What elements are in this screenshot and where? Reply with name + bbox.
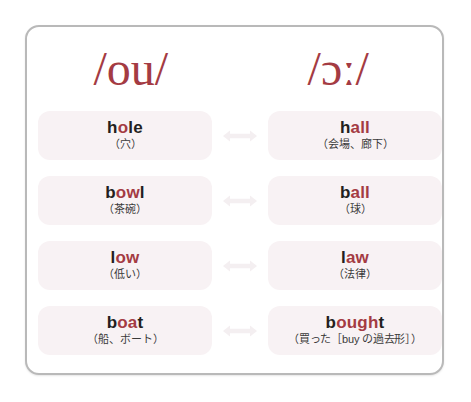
word-pair-list: hole （穴） hall （会場、廊下） bowl （茶碗） [27, 103, 442, 363]
word-left-highlight: ow [116, 183, 140, 202]
word-right: bought [326, 314, 385, 332]
pair-arrow-container [212, 306, 268, 355]
pair-arrow-container [212, 111, 268, 160]
word-right-pre: h [340, 118, 351, 137]
chart-card: /ou/ /ɔː/ hole （穴） hall （ [25, 25, 444, 375]
word-right-pre: b [340, 183, 351, 202]
word-left-post: t [137, 313, 143, 332]
word-card-right: law （法律） [268, 241, 442, 290]
word-left-post: le [128, 118, 143, 137]
word-left-pre: b [105, 183, 116, 202]
phonetic-header-row: /ou/ /ɔː/ [27, 33, 442, 105]
word-card-right: bought （買った［buy の過去形］） [268, 306, 442, 355]
word-pair-row: low （低い） law （法律） [27, 233, 442, 298]
word-left: hole [107, 119, 143, 137]
gloss-left: （船、ボート） [87, 333, 164, 346]
double-headed-arrow-icon [223, 129, 257, 143]
word-card-left: low （低い） [38, 241, 212, 290]
gloss-right: （会場、廊下） [317, 138, 394, 151]
word-card-left: hole （穴） [38, 111, 212, 160]
gloss-left: （穴） [109, 138, 142, 151]
word-left: bowl [105, 184, 145, 202]
word-card-left: boat （船、ボート） [38, 306, 212, 355]
word-right-pre: b [326, 313, 337, 332]
word-left-highlight: oa [117, 313, 137, 332]
word-left-highlight: ow [115, 248, 139, 267]
word-left-pre: b [107, 313, 118, 332]
pair-arrow-container [212, 176, 268, 225]
word-right: ball [340, 184, 370, 202]
double-headed-arrow-icon [223, 194, 257, 208]
word-left: low [111, 249, 140, 267]
word-right: hall [340, 119, 370, 137]
phonetic-symbol-left: /ou/ [93, 45, 168, 93]
double-headed-arrow-icon [223, 324, 257, 338]
word-card-left: bowl （茶碗） [38, 176, 212, 225]
word-card-right: ball （球） [268, 176, 442, 225]
word-card-right: hall （会場、廊下） [268, 111, 442, 160]
word-left-pre: h [107, 118, 118, 137]
gloss-left: （低い） [103, 268, 147, 281]
word-right-highlight: all [351, 118, 371, 137]
phonetic-symbol-right: /ɔː/ [308, 45, 369, 93]
gloss-right: （法律） [333, 268, 377, 281]
gloss-left: （茶碗） [103, 203, 147, 216]
word-left: boat [107, 314, 144, 332]
phonetic-header-right-cell: /ɔː/ [235, 33, 443, 105]
word-right-highlight: all [351, 183, 371, 202]
word-right: law [341, 249, 369, 267]
gloss-right: （球） [339, 203, 372, 216]
word-right-highlight: ough [336, 313, 378, 332]
minimal-pair-chart: /ou/ /ɔː/ hole （穴） hall （ [0, 0, 471, 402]
phonetic-header-left-cell: /ou/ [27, 33, 235, 105]
word-pair-row: bowl （茶碗） ball （球） [27, 168, 442, 233]
pair-arrow-container [212, 241, 268, 290]
word-pair-row: hole （穴） hall （会場、廊下） [27, 103, 442, 168]
gloss-right: （買った［buy の過去形］） [288, 333, 422, 346]
word-pair-row: boat （船、ボート） bought （買った［buy の過去形］） [27, 298, 442, 363]
word-left-highlight: o [118, 118, 129, 137]
word-left-post: l [140, 183, 145, 202]
double-headed-arrow-icon [223, 259, 257, 273]
word-right-highlight: aw [346, 248, 369, 267]
word-right-post: t [379, 313, 385, 332]
